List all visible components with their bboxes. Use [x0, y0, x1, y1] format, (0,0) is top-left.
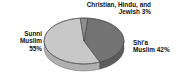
slice-label-shia-line1: Shi'a: [133, 39, 170, 46]
slice-label-shia-line2: Muslim 42%: [133, 46, 170, 53]
slice-label-other: Christian, Hindu, and Jewish 3%: [87, 1, 151, 16]
slice-label-sunni: Sunni Muslim 55%: [2, 30, 42, 52]
slice-label-shia: Shi'a Muslim 42%: [133, 39, 170, 54]
pie-chart-screenshot: Christian, Hindu, and Jewish 3% Sunni Mu…: [0, 0, 179, 75]
slice-label-other-line2: Jewish 3%: [87, 8, 151, 15]
slice-label-sunni-line3: 55%: [2, 45, 42, 52]
slice-label-sunni-line1: Sunni: [2, 30, 42, 37]
slice-label-other-line1: Christian, Hindu, and: [87, 1, 151, 8]
slice-label-sunni-line2: Muslim: [2, 37, 42, 44]
